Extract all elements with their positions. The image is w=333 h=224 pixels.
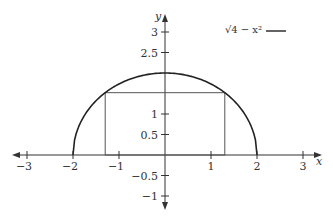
legend: √4 − x² <box>225 24 286 35</box>
x-tick-label: 3 <box>300 160 307 173</box>
x-axis-left-arrow-icon <box>12 152 20 158</box>
y-tick-label: 1 <box>151 108 158 121</box>
y-tick-label: 0.5 <box>141 129 159 142</box>
y-axis-down-arrow-icon <box>162 202 168 210</box>
x-tick-label: 1 <box>208 160 215 173</box>
legend-label: √4 − x² <box>225 24 262 35</box>
y-tick-label: −0.5 <box>131 170 158 183</box>
x-tick-label: −2 <box>62 160 78 173</box>
y-tick-label: −1 <box>142 190 158 203</box>
x-tick-label: 2 <box>254 160 261 173</box>
tick-marks: −3−2−112332.510.5−0.5−1 <box>16 26 307 203</box>
y-tick-label: 3 <box>151 26 158 39</box>
x-tick-label: −1 <box>108 160 124 173</box>
y-axis-up-arrow-icon <box>162 14 168 22</box>
axes: xy <box>12 10 323 210</box>
y-axis-label: y <box>154 10 162 23</box>
x-tick-label: −3 <box>16 160 32 173</box>
x-axis-label: x <box>316 155 323 168</box>
chart: xy −3−2−112332.510.5−0.5−1 √4 − x² <box>0 0 333 224</box>
y-tick-label: 2.5 <box>141 47 159 60</box>
